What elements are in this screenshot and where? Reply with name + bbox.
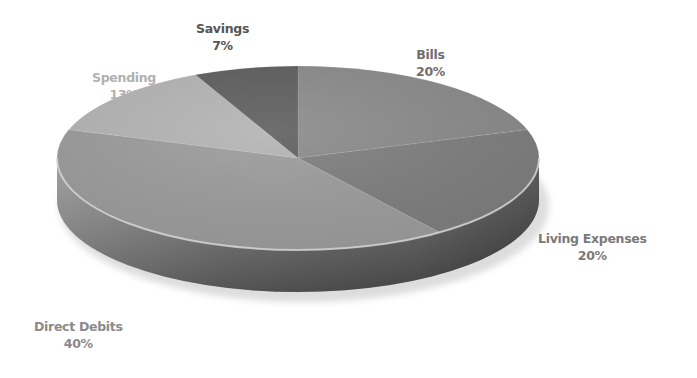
label-spending: Spending 13% bbox=[92, 69, 156, 103]
label-living-name: Living Expenses bbox=[538, 230, 647, 247]
label-savings-name: Savings bbox=[196, 20, 249, 37]
label-direct-debits: Direct Debits 40% bbox=[34, 318, 123, 352]
label-savings: Savings 7% bbox=[196, 20, 249, 54]
label-living-pct: 20% bbox=[538, 247, 647, 264]
label-spending-name: Spending bbox=[92, 69, 156, 86]
label-direct-name: Direct Debits bbox=[34, 318, 123, 335]
label-savings-pct: 7% bbox=[196, 37, 249, 54]
label-direct-pct: 40% bbox=[34, 335, 123, 352]
label-spending-pct: 13% bbox=[92, 86, 156, 103]
label-bills: Bills 20% bbox=[416, 46, 445, 80]
label-living-expenses: Living Expenses 20% bbox=[538, 230, 647, 264]
label-bills-pct: 20% bbox=[416, 63, 445, 80]
label-bills-name: Bills bbox=[416, 46, 445, 63]
